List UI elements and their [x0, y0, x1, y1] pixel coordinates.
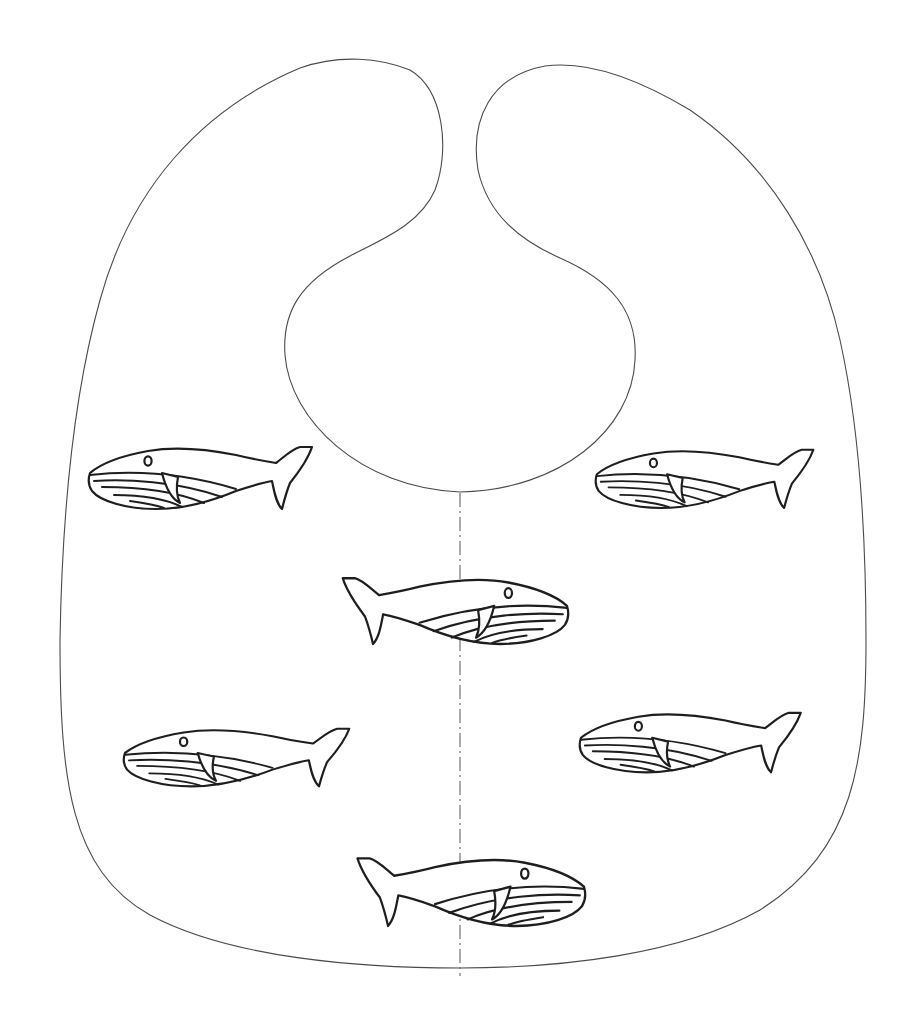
whale-5 [580, 713, 801, 773]
bib-pattern-figure: Baby bib sewing pattern with whale motif [0, 0, 906, 1031]
whale-6 [357, 858, 585, 926]
whale-2 [596, 450, 814, 508]
whale-3 [343, 578, 569, 644]
bib-pattern-svg [0, 0, 906, 1031]
whale-4 [124, 729, 350, 787]
bib-outline [60, 59, 866, 968]
whale-1 [89, 447, 312, 509]
